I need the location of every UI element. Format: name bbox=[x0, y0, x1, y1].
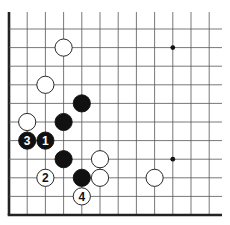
white-stone-2: 2 bbox=[37, 169, 54, 186]
stone-disc bbox=[19, 113, 36, 130]
white-stone bbox=[55, 39, 72, 56]
move-number-label: 1 bbox=[42, 134, 49, 148]
stone-disc bbox=[146, 169, 163, 186]
stone-disc bbox=[91, 169, 108, 186]
star-point bbox=[170, 157, 175, 162]
stone-disc bbox=[37, 76, 54, 93]
black-stone bbox=[73, 169, 90, 186]
black-stone-1: 1 bbox=[37, 132, 54, 149]
stone-disc bbox=[55, 113, 72, 130]
go-board: 3124 bbox=[0, 0, 230, 225]
white-stone bbox=[37, 76, 54, 93]
star-point bbox=[170, 45, 175, 50]
black-stone bbox=[55, 151, 72, 168]
move-number-label: 3 bbox=[24, 134, 31, 148]
white-stone bbox=[146, 169, 163, 186]
black-stone bbox=[73, 95, 90, 112]
stone-disc bbox=[73, 169, 90, 186]
white-stone-4: 4 bbox=[73, 188, 90, 205]
stone-disc bbox=[55, 151, 72, 168]
white-stone bbox=[91, 151, 108, 168]
stone-disc bbox=[91, 151, 108, 168]
move-number-label: 4 bbox=[78, 190, 85, 204]
white-stone bbox=[91, 169, 108, 186]
move-number-label: 2 bbox=[42, 171, 49, 185]
stone-disc bbox=[73, 95, 90, 112]
black-stone-3: 3 bbox=[19, 132, 36, 149]
black-stone bbox=[55, 113, 72, 130]
stone-disc bbox=[55, 39, 72, 56]
white-stone bbox=[19, 113, 36, 130]
